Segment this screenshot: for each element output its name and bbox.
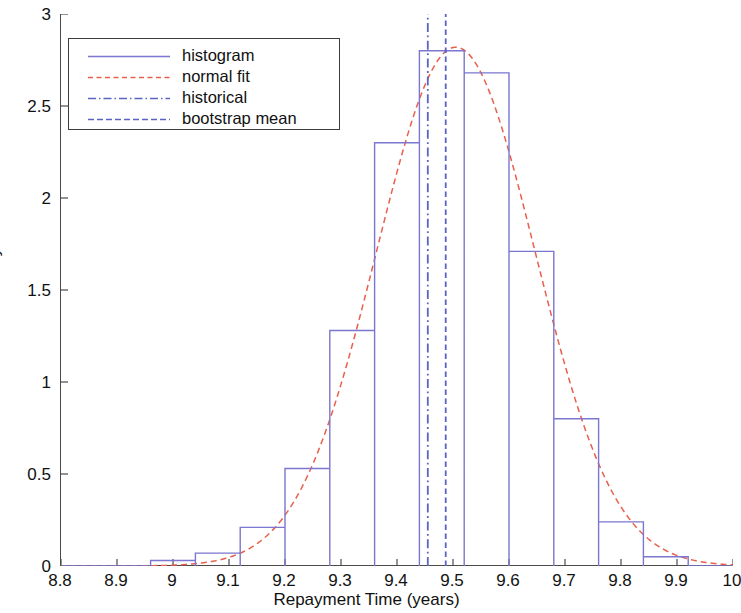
y-tick-label: 0 xyxy=(0,558,51,575)
legend-entry-historical: historical xyxy=(69,87,339,108)
x-tick-label: 9.8 xyxy=(608,572,632,589)
legend-entry-histogram: histogram xyxy=(69,45,339,66)
y-tick-label: 0.5 xyxy=(0,466,51,483)
x-tick-label: 9.6 xyxy=(496,572,520,589)
y-tick-label: 1.5 xyxy=(0,282,51,299)
y-tick-label: 2 xyxy=(0,190,51,207)
x-tick-label: 9.2 xyxy=(272,572,296,589)
x-tick-label: 8.9 xyxy=(104,572,128,589)
x-tick-label: 9 xyxy=(167,572,176,589)
x-tick-label: 9.5 xyxy=(440,572,464,589)
x-tick-label: 8.8 xyxy=(48,572,72,589)
legend: histogram normal fit historical bootstra… xyxy=(68,38,340,130)
y-tick-label: 2.5 xyxy=(0,98,51,115)
x-tick-label: 9.9 xyxy=(664,572,688,589)
legend-label-histogram: histogram xyxy=(182,47,254,64)
x-tick-label: 9.4 xyxy=(384,572,408,589)
legend-label-historical: historical xyxy=(182,89,247,106)
legend-label-bootstrap-mean: bootstrap mean xyxy=(182,110,297,127)
legend-label-normal-fit: normal fit xyxy=(182,68,250,85)
y-tick-label: 1 xyxy=(0,374,51,391)
legend-entry-bootstrap-mean: bootstrap mean xyxy=(69,108,339,129)
x-axis-label: Repayment Time (years) xyxy=(0,590,733,610)
x-tick-label: 10 xyxy=(723,572,741,589)
x-tick-label: 9.3 xyxy=(328,572,352,589)
x-tick-label: 9.7 xyxy=(552,572,576,589)
x-tick-label: 9.1 xyxy=(216,572,240,589)
legend-entry-normal-fit: normal fit xyxy=(69,66,339,87)
y-tick-label: 3 xyxy=(0,6,51,23)
